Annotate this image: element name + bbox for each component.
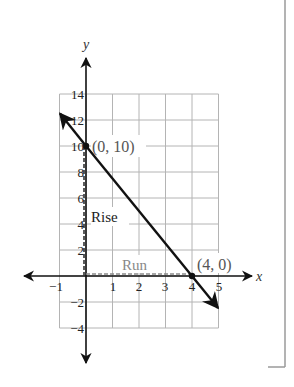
y-tick: 8 bbox=[78, 165, 85, 180]
x-tick: 1 bbox=[110, 279, 117, 294]
y-axis-label: y bbox=[81, 37, 90, 52]
x-tick: 2 bbox=[136, 279, 143, 294]
x-tick: 4 bbox=[189, 279, 196, 294]
point-label-0-10: (0, 10) bbox=[92, 138, 135, 156]
y-tick: 10 bbox=[71, 139, 84, 154]
x-axis-label: x bbox=[255, 269, 263, 284]
y-tick: 2 bbox=[78, 243, 85, 258]
plotted-line bbox=[86, 146, 218, 308]
y-tick: 14 bbox=[71, 87, 85, 102]
y-tick-labels: 14 12 10 8 6 4 2 −2 −4 bbox=[70, 87, 84, 336]
page-frame bbox=[268, 0, 285, 367]
run-label: Run bbox=[122, 257, 148, 273]
x-tick: 3 bbox=[162, 279, 169, 294]
y-tick: 12 bbox=[71, 113, 84, 128]
point-label-4-0: (4, 0) bbox=[197, 256, 232, 274]
y-tick: −4 bbox=[70, 321, 84, 336]
y-tick: 4 bbox=[78, 217, 85, 232]
y-tick: 6 bbox=[78, 191, 85, 206]
y-tick: −2 bbox=[70, 295, 84, 310]
rise-label: Rise bbox=[91, 209, 118, 225]
x-tick: −1 bbox=[49, 279, 63, 294]
x-tick: 5 bbox=[216, 279, 223, 294]
line-graph-figure: y x 14 12 10 8 6 4 2 −2 −4 −1 1 2 3 4 5 … bbox=[0, 0, 294, 387]
